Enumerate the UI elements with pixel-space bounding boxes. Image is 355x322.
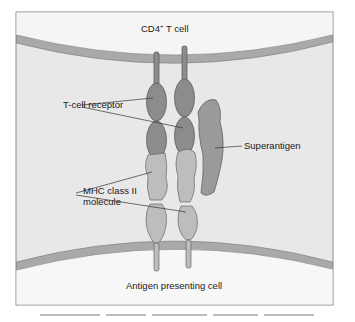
superantigen-diagram <box>0 0 355 322</box>
apc-label: Antigen presenting cell <box>126 280 222 291</box>
t-cell-label: CD4+ T cell <box>141 21 189 34</box>
mhc-label-line2: molecule <box>83 196 121 207</box>
mhc-label-line1: MHC class II <box>83 185 137 196</box>
t-cell-receptor-label: T-cell receptor <box>63 99 123 110</box>
superantigen-label: Superantigen <box>244 140 301 151</box>
cropped-caption <box>40 314 320 318</box>
